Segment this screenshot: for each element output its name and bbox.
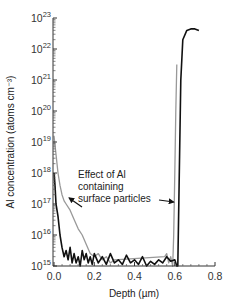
y-tick-label: 1017: [31, 196, 51, 210]
annotation-arrow-right: [159, 200, 174, 202]
x-tick-label: 0.2: [87, 270, 102, 282]
x-tick-label: 0.6: [167, 270, 182, 282]
x-tick-label: 0.8: [208, 270, 223, 282]
x-axis-title: Depth (µm): [109, 288, 159, 299]
y-tick-label: 1019: [31, 134, 51, 148]
y-axis-title: Al concentration (atoms cm⁻³): [5, 76, 16, 209]
plot-area: [54, 29, 199, 266]
y-tick-label: 1016: [31, 227, 51, 241]
series-black-line: [54, 29, 199, 266]
y-tick-label: 1023: [31, 10, 51, 24]
chart: 101510161017101810191020102110221023 0.0…: [0, 0, 231, 307]
x-axis: 0.00.20.40.60.8: [47, 262, 223, 282]
annotation-text: Effect of Alcontainingsurface particles: [78, 169, 151, 204]
x-tick-label: 0.4: [127, 270, 142, 282]
y-tick-label: 1022: [31, 41, 51, 55]
y-tick-label: 1021: [31, 72, 51, 86]
series-gray-line: [54, 65, 177, 267]
y-tick-label: 1018: [31, 165, 51, 179]
y-axis: 101510161017101810191020102110221023: [31, 10, 57, 272]
annotation-surface-particles: Effect of Alcontainingsurface particles: [69, 169, 174, 207]
x-tick-label: 0.0: [47, 270, 62, 282]
y-tick-label: 1020: [31, 103, 51, 117]
